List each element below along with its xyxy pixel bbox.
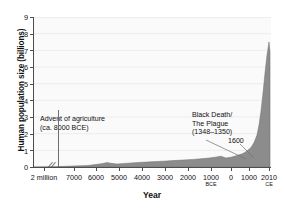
annotation-black-death-line-2: The Plague bbox=[192, 120, 232, 129]
y-axis-line bbox=[33, 17, 34, 167]
x-tick-7 bbox=[211, 168, 212, 171]
y-tick-label-6: 6 bbox=[16, 63, 28, 72]
x-tick-label-3: 5000 bbox=[107, 173, 131, 182]
advent-of-agriculture-marker-line bbox=[58, 110, 59, 167]
annotation-black-death-line-3: (1348–1350) bbox=[192, 128, 232, 137]
y-tick-6 bbox=[30, 67, 33, 68]
x-tick-label-5: 3000 bbox=[153, 173, 177, 182]
y-tick-5 bbox=[30, 84, 33, 85]
y-tick-0 bbox=[30, 167, 33, 168]
x-axis-title: Year bbox=[33, 190, 271, 200]
x-tick-label-1: 7000 bbox=[62, 173, 86, 182]
y-tick-label-2: 2 bbox=[16, 130, 28, 139]
y-tick-label-0: 0 bbox=[16, 163, 28, 172]
y-tick-9 bbox=[30, 17, 33, 18]
annotation-black-death: Black Death/ The Plague (1348–1350) bbox=[192, 111, 232, 137]
annotation-advent-line-1: Advent of agriculture bbox=[40, 115, 105, 124]
x-tick-3 bbox=[119, 168, 120, 171]
y-tick-2 bbox=[30, 134, 33, 135]
x-tick-0 bbox=[44, 168, 45, 171]
area-fill bbox=[33, 42, 270, 167]
annotation-1600: 1600 bbox=[228, 137, 244, 146]
x-tick-4 bbox=[142, 168, 143, 171]
x-tick-label-0: 2 million bbox=[26, 173, 62, 182]
y-tick-label-4: 4 bbox=[16, 97, 28, 106]
y-axis-title: Human population size (billions) bbox=[17, 20, 29, 160]
x-tick-label-2: 6000 bbox=[84, 173, 108, 182]
y-tick-3 bbox=[30, 117, 33, 118]
y-tick-4 bbox=[30, 100, 33, 101]
x-tick-label-6: 2000 bbox=[176, 173, 200, 182]
y-tick-label-8: 8 bbox=[16, 30, 28, 39]
annotation-advent-of-agriculture: Advent of agriculture (ca. 8000 BCE) bbox=[40, 115, 105, 132]
y-tick-label-5: 5 bbox=[16, 80, 28, 89]
y-tick-7 bbox=[30, 50, 33, 51]
annotation-1600-label: 1600 bbox=[228, 137, 244, 146]
y-tick-label-3: 3 bbox=[16, 113, 28, 122]
y-tick-8 bbox=[30, 34, 33, 35]
x-axis-line bbox=[33, 167, 271, 168]
x-tick-sublabel-bce: BCE bbox=[199, 181, 223, 187]
x-tick-1 bbox=[74, 168, 75, 171]
y-tick-label-7: 7 bbox=[16, 47, 28, 56]
y-tick-1 bbox=[30, 150, 33, 151]
x-tick-2 bbox=[96, 168, 97, 171]
population-chart-figure: Human population size (billions) bbox=[0, 0, 284, 209]
y-tick-label-1: 1 bbox=[16, 147, 28, 156]
y-tick-label-9: 9 bbox=[16, 13, 28, 22]
x-tick-sublabel-ce: CE bbox=[257, 181, 281, 187]
x-tick-9 bbox=[249, 168, 250, 171]
x-tick-10 bbox=[269, 168, 270, 171]
x-tick-label-4: 4000 bbox=[130, 173, 154, 182]
annotation-black-death-line-1: Black Death/ bbox=[192, 111, 232, 120]
x-tick-5 bbox=[165, 168, 166, 171]
x-tick-8 bbox=[231, 168, 232, 171]
annotation-advent-line-2: (ca. 8000 BCE) bbox=[40, 124, 105, 133]
x-tick-6 bbox=[188, 168, 189, 171]
